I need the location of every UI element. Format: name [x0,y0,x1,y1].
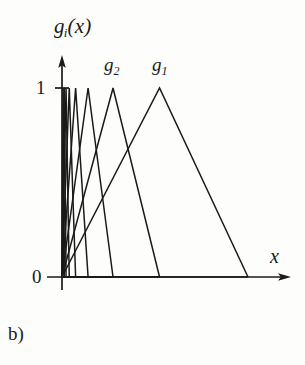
membership-function-curves [62,88,248,277]
curve-label-g1-base: g [152,54,162,75]
curve-label-g2-base: g [104,54,114,75]
curve-label-g1: g1 [152,55,168,77]
y-axis-label-argument: (x) [68,14,92,38]
curve-label-g2: g2 [104,55,120,77]
y-axis-label: gi(x) [54,16,91,39]
figure-panel-b: gi(x) x g2 g1 1 0 b) [0,0,305,365]
x-axis-label: x [270,246,279,266]
curve-g1 [62,88,248,277]
curve-label-g1-subscript: 1 [162,64,168,78]
curve-label-g2-subscript: 2 [114,64,120,78]
y-tick-label-one: 1 [36,78,46,97]
figure-caption: b) [8,324,24,343]
y-tick-label-zero: 0 [32,267,42,286]
